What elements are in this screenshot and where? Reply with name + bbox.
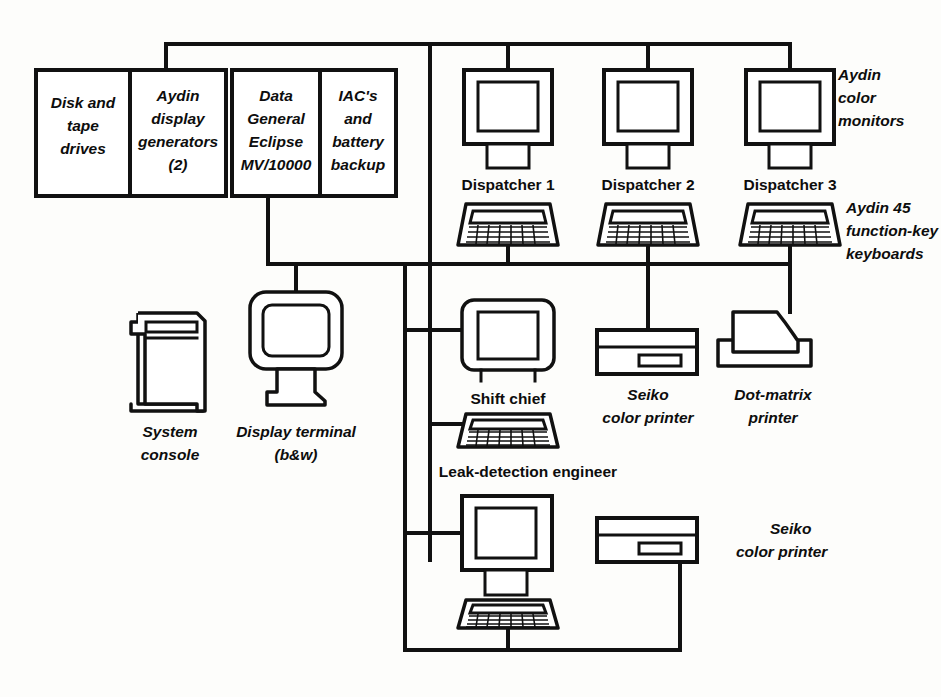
function-key-keyboards-row [458,204,840,245]
iac-line-1: IAC's [339,87,378,104]
display-terminal-bw [250,292,342,405]
seiko-color-printer-top [597,330,697,374]
shift-chief-label: Shift chief [471,390,547,407]
monitor-dispatcher-3 [746,70,834,168]
eclipse-line-2: General [247,110,305,127]
dispatcher-1-label: Dispatcher 1 [461,176,554,193]
keyboard-dispatcher-1 [458,204,558,245]
disk-tape-line-1: Disk and [51,94,116,111]
eclipse-line-3: Eclipse [249,133,304,150]
annotation-dot-matrix-printer: Dot-matrix printer [734,386,813,426]
annotation-aydin-keyboards: Aydin 45 function-key keyboards [845,199,940,262]
system-console-line-1: System [142,423,197,440]
system-block-diagram: Disk and tape drives Aydin display gener… [0,0,941,697]
keyboard-leak-detection-engineer [458,600,558,628]
dot-matrix-line-2: printer [747,409,798,426]
iac-line-3: battery [332,133,385,150]
annotation-seiko-printer-top: Seiko color printer [602,386,694,426]
aydin-keyboards-line-2: function-key [846,222,940,239]
aydin-keyboards-line-3: keyboards [846,245,924,262]
equipment-box-disk-tape-drives: Disk and tape drives [36,70,130,196]
monitor-dispatcher-1 [464,70,552,168]
disk-tape-line-3: drives [60,140,106,157]
seiko-top-line-2: color printer [602,409,694,426]
iac-line-4: backup [331,156,385,173]
monitor-dispatcher-2 [604,70,692,168]
dot-matrix-line-1: Dot-matrix [734,386,813,403]
disk-tape-line-2: tape [67,117,99,134]
annotation-display-terminal: Display terminal (b&w) [236,423,356,463]
aydin-keyboards-line-1: Aydin 45 [845,199,911,216]
system-console-line-2: console [141,446,200,463]
keyboard-dispatcher-3 [740,204,840,245]
annotation-system-console: System console [141,423,200,463]
aydin-gen-line-2: display [151,110,206,127]
annotation-aydin-color-monitors: Aydin color monitors [837,66,905,129]
aydin-gen-line-1: Aydin [155,87,199,104]
aydin-monitors-line-3: monitors [838,112,905,129]
display-terminal-line-1: Display terminal [236,423,356,440]
keyboard-dispatcher-2 [598,204,698,245]
dispatcher-3-label: Dispatcher 3 [743,176,836,193]
equipment-box-row: Disk and tape drives Aydin display gener… [36,70,396,196]
eclipse-line-1: Data [259,87,293,104]
display-terminal-line-2: (b&w) [274,446,317,463]
eclipse-to-keyboard-bus [268,196,405,264]
equipment-box-aydin-display-generators: Aydin display generators (2) [130,70,226,196]
eclipse-line-4: MV/10000 [241,156,312,173]
seiko-color-printer-bottom [597,518,697,562]
iac-line-2: and [344,110,372,127]
leak-detection-engineer-label: Leak-detection engineer [439,463,617,480]
dispatcher-2-label: Dispatcher 2 [601,176,694,193]
dispatcher-monitors-row: Dispatcher 1 Dispatcher 2 Dispatcher 3 [461,70,836,193]
aydin-gen-line-3: generators [137,133,218,150]
system-diagram-canvas: Disk and tape drives Aydin display gener… [0,0,941,697]
aydin-monitors-line-2: color [838,89,877,106]
dot-matrix-printer [718,312,811,366]
aydin-monitors-line-1: Aydin [837,66,881,83]
seiko-bottom-line-2: color printer [736,543,828,560]
seiko-bottom-line-1: Seiko [770,520,811,537]
monitor-shift-chief [462,300,554,381]
monitor-leak-detection-engineer [462,496,552,595]
equipment-box-iac-battery-backup: IAC's and battery backup [320,70,396,196]
seiko-top-line-1: Seiko [627,386,668,403]
aydin-gen-line-4: (2) [169,156,188,173]
system-console [131,313,205,411]
keyboard-shift-chief [458,414,558,447]
annotation-seiko-printer-bottom: Seiko color printer [736,520,828,560]
equipment-box-data-general-eclipse: Data General Eclipse MV/10000 [232,70,320,196]
